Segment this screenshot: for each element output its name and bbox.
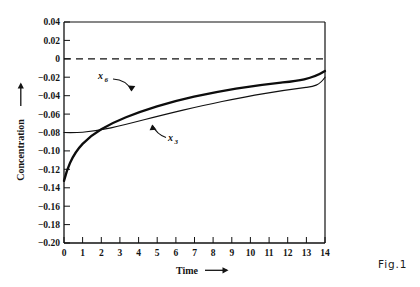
x-tick-label: 14 <box>320 248 330 258</box>
x-axis-title-group: Time <box>176 265 229 276</box>
y-tick-label: −0.02 <box>38 73 60 83</box>
figure-caption: Fig.1 <box>378 258 407 270</box>
x-tick-label: 11 <box>265 248 274 258</box>
x3-leader-line <box>153 126 167 138</box>
x-tick-label: 6 <box>174 248 179 258</box>
x-tick-label: 0 <box>62 248 67 258</box>
x-axis-title: Time <box>176 265 199 276</box>
x6-label-base: x <box>97 70 103 81</box>
y-tick-label: −0.18 <box>38 220 60 230</box>
y-tick-label: −0.16 <box>38 202 60 212</box>
x-tick-label: 3 <box>118 248 123 258</box>
y-tick-label: −0.04 <box>38 91 60 101</box>
x-tick-label: 10 <box>246 248 256 258</box>
x3-label-base: x <box>167 132 173 143</box>
y-axis-title-group: Concentration <box>15 83 26 181</box>
x-tick-marks <box>64 237 325 243</box>
figure-container: 0.04 0.02 0 −0.02 −0.04 −0.06 −0.08 −0.1… <box>0 0 420 287</box>
y-tick-label: −0.08 <box>38 128 60 138</box>
y-tick-labels: 0.04 0.02 0 −0.02 −0.04 −0.06 −0.08 −0.1… <box>38 17 60 248</box>
y-tick-label: −0.14 <box>38 183 60 193</box>
y-tick-label: −0.10 <box>38 146 60 156</box>
x6-leader-arrowhead <box>128 86 135 92</box>
y-tick-label: −0.06 <box>38 110 60 120</box>
x3-leader-arrowhead <box>150 125 157 131</box>
x-tick-label: 13 <box>302 248 312 258</box>
plot-frame <box>64 22 325 243</box>
y-axis-arrow-icon <box>18 83 24 107</box>
x-tick-label: 9 <box>229 248 234 258</box>
x3-callout: x 3 <box>150 125 179 146</box>
x-tick-label: 7 <box>192 248 197 258</box>
x-axis-arrow-icon <box>205 267 229 273</box>
series-line-x3 <box>64 77 325 132</box>
y-tick-label: 0 <box>55 54 60 64</box>
x-tick-label: 1 <box>80 248 85 258</box>
x-tick-labels: 0 1 2 3 4 5 6 7 8 9 10 11 12 13 14 <box>62 248 330 258</box>
x-tick-label: 2 <box>99 248 104 258</box>
y-tick-label: −0.12 <box>38 165 60 175</box>
x-tick-label: 8 <box>211 248 216 258</box>
x-tick-label: 4 <box>136 248 141 258</box>
x3-label-subscript: 3 <box>174 138 179 146</box>
x-tick-label: 12 <box>283 248 293 258</box>
y-tick-label: 0.02 <box>43 36 60 46</box>
series-line-x6 <box>64 71 325 181</box>
x6-callout: x 6 <box>97 70 135 92</box>
y-tick-label: −0.20 <box>38 238 60 248</box>
x6-label-subscript: 6 <box>105 76 109 84</box>
x-tick-label: 5 <box>155 248 160 258</box>
chart-canvas: 0.04 0.02 0 −0.02 −0.04 −0.06 −0.08 −0.1… <box>0 0 420 287</box>
y-axis-title: Concentration <box>15 119 26 181</box>
y-tick-label: 0.04 <box>43 17 60 27</box>
x6-leader-line <box>113 79 132 91</box>
